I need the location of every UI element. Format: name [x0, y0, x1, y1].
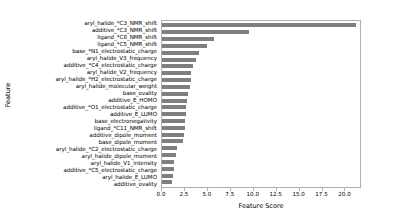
y-tick-label: aryl_halide_V1_intensity [14, 160, 160, 167]
bar [162, 37, 214, 41]
bar [162, 139, 183, 143]
bar [162, 174, 173, 178]
y-tick-label: additive_E_HOMO [14, 97, 160, 104]
plot-area [161, 20, 361, 188]
bar [162, 99, 187, 103]
bar [162, 180, 172, 184]
x-tick-label: 10.0 [247, 191, 259, 197]
bar [162, 64, 193, 68]
bar-row [162, 165, 360, 172]
bar-row [162, 90, 360, 97]
bar [162, 30, 249, 34]
bar-series [162, 21, 360, 187]
x-tick-label: 17.5 [315, 191, 327, 197]
bar-row [162, 42, 360, 49]
y-tick-label: aryl_halide_*H2_electrostatic_charge [14, 76, 160, 83]
feature-importance-bar-chart: Feature aryl_halide_*C3_NMR_shiftadditiv… [0, 0, 398, 222]
x-tick-label: 12.5 [269, 191, 281, 197]
bar-row [162, 118, 360, 125]
y-tick-label: base_dipole_moment [14, 139, 160, 146]
y-tick-label: additive_*O1_electrostatic_charge [14, 104, 160, 111]
y-tick-label: aryl_halide_dipole_moment [14, 153, 160, 160]
bar [162, 133, 184, 137]
bar-row [162, 145, 360, 152]
bar [162, 58, 196, 62]
bar [162, 126, 185, 130]
bar-row [162, 29, 360, 36]
y-tick-label: aryl_halide_V2_frequency [14, 69, 160, 76]
y-tick-label: additive_ovality [14, 181, 160, 188]
y-axis-title-text: Feature [4, 83, 12, 108]
x-tick-label: 0.0 [157, 191, 166, 197]
y-axis-tick-labels: aryl_halide_*C3_NMR_shiftadditive_*C3_NM… [14, 20, 160, 188]
bar [162, 146, 177, 150]
bar [162, 167, 174, 171]
bar [162, 119, 185, 123]
bar-row [162, 138, 360, 145]
y-tick-label: aryl_halide_V3_frequency [14, 55, 160, 62]
bar-row [162, 172, 360, 179]
bar-row [162, 97, 360, 104]
bar [162, 153, 176, 157]
bar-row [162, 63, 360, 70]
x-axis-title: Feature Score [161, 202, 361, 210]
bar-row [162, 152, 360, 159]
bar [162, 160, 174, 164]
bar-row [162, 22, 360, 29]
bar-row [162, 104, 360, 111]
y-tick-label: additive_dipole_moment [14, 132, 160, 139]
y-tick-label: ligand_*C5_NMR_shift [14, 41, 160, 48]
y-tick-label: additive_*C4_electrostatic_charge [14, 62, 160, 69]
bar-row [162, 124, 360, 131]
bar-row [162, 49, 360, 56]
x-axis-ticks: 0.02.55.07.510.012.515.017.520.0 [161, 188, 361, 202]
x-tick-label: 15.0 [292, 191, 304, 197]
y-tick-label: additive_E_LUMO [14, 111, 160, 118]
bar [162, 78, 191, 82]
bar-row [162, 159, 360, 166]
bar-row [162, 56, 360, 63]
y-tick-label: additive_*C5_electrostatic_charge [14, 167, 160, 174]
y-tick-label: aryl_halide_E_LUMO [14, 174, 160, 181]
y-tick-label: additive_*C3_NMR_shift [14, 27, 160, 34]
bar [162, 44, 207, 48]
bar [162, 85, 190, 89]
x-tick-label: 2.5 [179, 191, 188, 197]
y-tick-label: ligand_*C11_NMR_shift [14, 125, 160, 132]
bar-row [162, 83, 360, 90]
bar [162, 51, 199, 55]
x-tick-label: 20.0 [338, 191, 350, 197]
bar-row [162, 77, 360, 84]
y-tick-label: aryl_halide_*C2_electrostatic_charge [14, 146, 160, 153]
x-tick-label: 7.5 [225, 191, 234, 197]
y-tick-label: aryl_halide_*C3_NMR_shift [14, 20, 160, 27]
y-tick-label: base_electronegativity [14, 118, 160, 125]
bar [162, 71, 191, 75]
bar-row [162, 70, 360, 77]
x-tick-label: 5.0 [202, 191, 211, 197]
bar [162, 105, 186, 109]
y-tick-label: aryl_halide_molecular_weight [14, 83, 160, 90]
bar [162, 92, 188, 96]
bar-row [162, 111, 360, 118]
bar-row [162, 131, 360, 138]
y-tick-label: base_ovality [14, 90, 160, 97]
bar [162, 23, 356, 27]
bar-row [162, 36, 360, 43]
y-tick-label: ligand_*C8_NMR_shift [14, 34, 160, 41]
bar [162, 112, 186, 116]
y-tick-label: base_*N1_electrostatic_charge [14, 48, 160, 55]
bar-row [162, 179, 360, 186]
